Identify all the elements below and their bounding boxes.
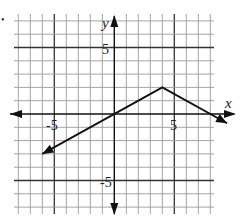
bullet-marker: • [1, 14, 5, 25]
x-tick-label-pos5: 5 [170, 118, 177, 133]
y-axis-label: y [100, 15, 109, 31]
y-axis-down-arrow-icon [110, 203, 118, 215]
graph-line [42, 87, 227, 153]
x-axis-left-arrow-icon [10, 110, 22, 118]
piecewise-line [42, 87, 227, 153]
x-axis-right-arrow-icon [224, 110, 236, 118]
coordinate-graph: yx-555-5• [0, 0, 240, 222]
axis-labels: yx-555-5• [1, 14, 232, 190]
x-tick-label-neg5: -5 [46, 118, 58, 133]
y-tick-label-pos5: 5 [102, 42, 109, 57]
axes [10, 15, 236, 215]
x-axis-label: x [224, 95, 232, 111]
y-tick-label-neg5: -5 [100, 175, 112, 190]
